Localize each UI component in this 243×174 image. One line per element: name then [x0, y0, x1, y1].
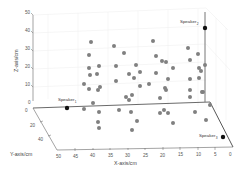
data-point: [127, 72, 131, 76]
data-point: [87, 53, 91, 57]
data-point: [166, 77, 170, 81]
speaker2-label: Speaker2: [180, 19, 199, 26]
data-point: [186, 46, 190, 50]
x-tick-35: 35: [108, 153, 114, 158]
data-point: [135, 119, 139, 123]
data-point: [188, 77, 192, 81]
data-point: [88, 73, 92, 77]
x-tick-40: 40: [90, 153, 96, 158]
z-tick-20: 20: [25, 64, 31, 69]
data-point: [138, 84, 142, 88]
data-point: [147, 82, 151, 86]
data-point: [154, 54, 158, 58]
speaker1-label: Speaker1: [58, 97, 77, 104]
y-tick-40: 40: [38, 137, 44, 142]
data-point: [97, 126, 101, 130]
x-tick-30: 30: [125, 153, 131, 158]
data-point: [130, 128, 134, 132]
data-point: [91, 101, 95, 105]
data-point: [89, 40, 93, 44]
x-tick-45: 45: [73, 154, 79, 159]
z-axis: 50 40 30 20 10 0 Z-axis/cm: [13, 10, 33, 105]
data-point: [162, 108, 166, 112]
data-point: [127, 98, 131, 102]
z-tick-40: 40: [25, 28, 31, 33]
y-tick-20: 20: [30, 123, 36, 128]
y-axis: 0 20 40 Y-axis/cm: [10, 108, 51, 157]
x-axis-label: X-axis/cm: [114, 160, 137, 166]
x-tick-25: 25: [143, 153, 149, 158]
data-point: [138, 70, 142, 74]
data-point: [82, 82, 86, 86]
z-tick-30: 30: [25, 46, 31, 51]
data-points: [82, 39, 212, 132]
data-point: [82, 107, 86, 111]
z-tick-50: 50: [25, 10, 31, 15]
data-point: [164, 60, 168, 64]
data-point: [188, 58, 192, 62]
x-tick-20: 20: [160, 153, 166, 158]
data-point: [160, 59, 164, 63]
data-point: [158, 96, 162, 100]
data-point: [188, 95, 192, 99]
z-tick-0: 0: [28, 100, 31, 105]
x-tick-10: 10: [196, 152, 202, 157]
z-axis-label: Z-axis/cm: [13, 50, 19, 72]
y-axis-label: Y-axis/cm: [10, 151, 32, 157]
data-point: [129, 110, 133, 114]
data-point: [164, 88, 168, 92]
data-point: [96, 120, 100, 124]
speaker3-label: Speaker3: [199, 133, 218, 140]
data-point: [134, 63, 138, 67]
speaker1-marker: [65, 106, 69, 110]
data-point: [97, 110, 101, 114]
data-point: [201, 90, 205, 94]
x-tick-50: 50: [56, 154, 62, 159]
data-point: [112, 44, 116, 48]
data-point: [171, 121, 175, 125]
data-point: [114, 64, 118, 68]
data-point: [122, 51, 126, 55]
data-point: [197, 76, 201, 80]
data-point: [199, 69, 203, 73]
data-point: [95, 72, 99, 76]
data-point: [203, 63, 207, 67]
x-tick-15: 15: [178, 152, 184, 157]
data-point: [151, 39, 155, 43]
data-point: [196, 52, 200, 56]
scatter-3d-plot: 50 40 30 20 10 0 Z-axis/cm 0 20 40 Y-axi…: [0, 0, 243, 174]
data-point: [87, 66, 91, 70]
data-point: [166, 111, 170, 115]
speaker2-marker: [203, 26, 207, 30]
data-point: [97, 64, 101, 68]
grid-lines: [33, 8, 230, 120]
floor-box: [33, 102, 233, 150]
y-tick-0: 0: [25, 108, 28, 113]
data-point: [130, 93, 134, 97]
data-point: [208, 103, 212, 107]
data-point: [124, 95, 128, 99]
z-tick-10: 10: [25, 82, 31, 87]
x-tick-0: 0: [229, 152, 232, 157]
data-point: [204, 118, 208, 122]
data-point: [114, 79, 118, 83]
data-point: [158, 111, 162, 115]
speaker3-marker: [221, 135, 225, 139]
data-point: [132, 76, 136, 80]
data-point: [96, 88, 100, 92]
data-point: [171, 66, 175, 70]
data-point: [154, 71, 158, 75]
data-point: [117, 108, 121, 112]
data-point: [87, 87, 91, 91]
data-point: [188, 88, 192, 92]
data-point: [193, 110, 197, 114]
x-tick-5: 5: [214, 152, 217, 157]
